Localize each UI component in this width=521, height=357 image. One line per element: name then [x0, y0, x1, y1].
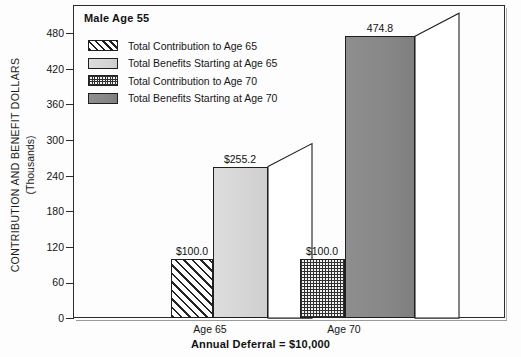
y-tick-label-240: 240: [34, 171, 64, 182]
y-tick-label-0: 0: [34, 313, 64, 324]
legend-item-contribution-65: Total Contribution to Age 65: [88, 37, 277, 55]
y-tick-label-60: 60: [34, 277, 64, 288]
y-tick-label-120: 120: [34, 242, 64, 253]
frame-shadow-bottom: [76, 320, 507, 322]
legend-label-benefits-65: Total Benefits Starting at Age 65: [128, 57, 277, 69]
x-axis-title: Annual Deferral = $10,000: [0, 338, 521, 350]
bar-age65-contribution: [171, 259, 213, 318]
x-category-label-age-65: Age 65: [175, 323, 245, 335]
legend-item-benefits-70: Total Benefits Starting at Age 70: [88, 90, 277, 108]
y-tick-label-360: 360: [34, 99, 64, 110]
legend-swatch-light-gray-icon: [88, 58, 118, 69]
y-tick-label-180: 180: [34, 206, 64, 217]
chart-title: Male Age 55: [84, 12, 149, 24]
chart-legend: Total Contribution to Age 65 Total Benef…: [88, 37, 277, 107]
legend-swatch-diagonal-hatch-icon: [88, 40, 118, 51]
legend-label-contribution-65: Total Contribution to Age 65: [128, 40, 257, 52]
frame-shadow-right: [506, 8, 508, 320]
y-tick-label-420: 420: [34, 64, 64, 75]
y-tick-label-480: 480: [34, 28, 64, 39]
chart-screenshot: CONTRIBUTION AND BENEFIT DOLLARS (Thousa…: [0, 0, 521, 357]
legend-swatch-checkerboard-icon: [88, 75, 118, 86]
value-label-age65-benefits: $255.2: [205, 153, 275, 165]
bar-age70-contribution: [300, 259, 345, 318]
legend-swatch-dark-gray-icon: [88, 93, 118, 104]
bar-age65-benefits: [213, 167, 268, 319]
legend-label-contribution-70: Total Contribution to Age 70: [128, 75, 257, 87]
y-tick-mark-0: [66, 318, 74, 319]
y-tick-label-300: 300: [34, 135, 64, 146]
legend-item-contribution-70: Total Contribution to Age 70: [88, 72, 277, 90]
legend-label-benefits-70: Total Benefits Starting at Age 70: [128, 92, 277, 104]
value-label-age70-contribution: $100.0: [287, 245, 357, 257]
legend-item-benefits-65: Total Benefits Starting at Age 65: [88, 55, 277, 73]
bar-age70-benefits: [345, 36, 415, 318]
value-label-age70-benefits: 474.8: [345, 22, 415, 34]
value-label-age65-contribution: $100.0: [157, 245, 227, 257]
x-category-label-age-70: Age 70: [309, 323, 379, 335]
